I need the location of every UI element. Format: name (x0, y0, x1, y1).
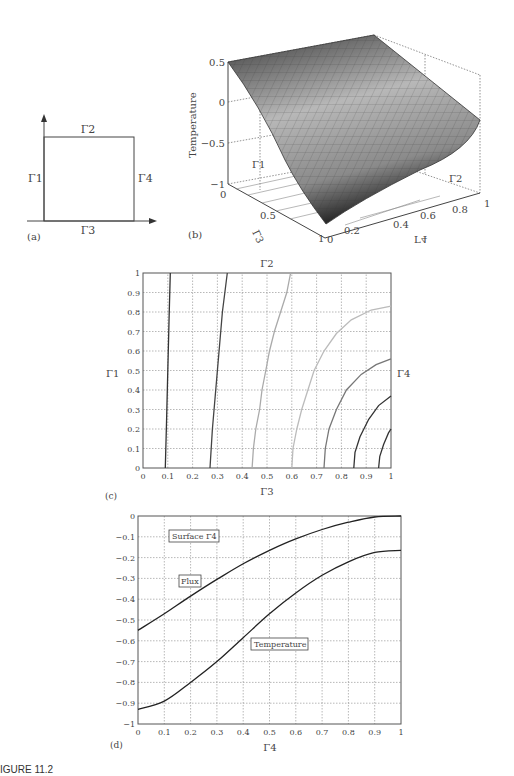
domain-square (44, 137, 134, 221)
x-tick: 0.8 (342, 728, 355, 737)
x-tick: 0.9 (360, 472, 373, 481)
y-tick: 1 (135, 269, 140, 278)
y-tick: −0.9 (116, 699, 135, 708)
x-axis-label: Γ4 (263, 742, 276, 753)
x-tick: 0 (140, 472, 145, 481)
arrow-right-icon (149, 218, 157, 224)
gamma4-tick: 0.4 (393, 219, 409, 230)
x-tick: 0.2 (186, 472, 199, 481)
gamma3-axis-label: Γ3 (250, 228, 266, 245)
x-tick: 1 (388, 472, 393, 481)
x-tick: 0 (135, 728, 140, 737)
y-tick: 0.7 (127, 328, 140, 337)
x-tick: 0.3 (211, 472, 224, 481)
gamma1-label: Γ1 (252, 159, 265, 170)
y-tick: 0.5 (127, 367, 140, 376)
y-tick: 0.8 (127, 308, 140, 317)
gamma1-label: Γ1 (106, 368, 119, 379)
gamma3-tick: 0 (220, 189, 226, 200)
x-tick: 0.6 (285, 472, 298, 481)
gamma4-tick: 0 (327, 234, 333, 245)
y-tick: 0.9 (127, 289, 140, 298)
contour-line (354, 396, 391, 468)
gamma4-label: Γ4 (397, 368, 410, 379)
z-tick: −0.5 (201, 138, 225, 149)
panel-c-contour-plot: 00.10.20.30.40.50.60.70.80.9100.10.20.30… (105, 258, 410, 501)
gamma4-tick: 0.8 (452, 204, 468, 215)
x-tick: 1 (398, 728, 403, 737)
x-axis-label: Γ3 (260, 486, 273, 497)
x-tick: 0.1 (161, 472, 174, 481)
panel-d-line-chart: 00.10.20.30.40.50.60.70.80.910−0.1−0.2−0… (110, 512, 404, 753)
panel-b-surface-plot: 0.5 0 −0.5 −1 Temperature Γ1 Γ2 0 0.5 1 … (187, 35, 490, 245)
y-tick: −0.8 (116, 678, 135, 687)
x-tick: 0.8 (335, 472, 348, 481)
gamma3-tick: 0.5 (260, 210, 276, 221)
gamma3-label: Γ3 (81, 224, 96, 237)
arrow-up-icon (41, 114, 47, 122)
x-tick: 0.1 (158, 728, 171, 737)
figure-caption: IGURE 11.2 (0, 764, 53, 775)
x-tick: 0.4 (237, 728, 250, 737)
y-tick: −0.2 (116, 554, 135, 563)
gamma4-tick: 0.6 (420, 210, 436, 221)
figure-canvas: Γ2 Γ1 Γ4 Γ3 (a) (0, 0, 514, 776)
x-tick: 0.7 (310, 472, 323, 481)
z-tick: 0 (219, 97, 225, 108)
y-tick: −0.6 (116, 637, 135, 646)
panel-c-label: (c) (105, 491, 117, 501)
panel-b-label: (b) (188, 229, 202, 240)
gamma1-label: Γ1 (28, 172, 43, 185)
annotation-surface: Surface Γ4 (172, 532, 217, 541)
y-tick: 0 (135, 464, 140, 473)
gamma4-axis-label: Γ4 (414, 234, 427, 245)
y-tick: −1 (123, 720, 135, 729)
panel-a-label: (a) (27, 231, 41, 242)
x-tick: 0.4 (236, 472, 249, 481)
gamma2-label: Γ2 (81, 123, 96, 136)
y-tick: −0.7 (116, 658, 135, 667)
panel-d-label: (d) (110, 740, 123, 750)
z-tick: 0.5 (209, 57, 225, 68)
x-tick: 0.5 (263, 728, 276, 737)
x-tick: 0.6 (289, 728, 302, 737)
x-tick: 0.5 (261, 472, 274, 481)
x-tick: 0.9 (368, 728, 381, 737)
y-tick: 0.1 (127, 445, 140, 454)
x-tick: 0.7 (316, 728, 329, 737)
y-tick: 0.4 (127, 386, 140, 395)
gamma4-tick: 1 (484, 198, 490, 209)
y-tick: 0.2 (127, 425, 140, 434)
y-tick: −0.3 (116, 574, 135, 583)
y-tick: −0.4 (116, 595, 135, 604)
y-tick: 0 (130, 512, 135, 521)
x-tick: 0.3 (211, 728, 224, 737)
x-tick: 0.2 (184, 728, 197, 737)
gamma3-tick: 1 (318, 233, 324, 244)
gamma4-tick: 0.2 (344, 225, 360, 236)
gamma2-label: Γ2 (260, 258, 273, 269)
z-axis-label: Temperature (187, 92, 198, 158)
y-tick: 0.6 (127, 347, 140, 356)
gamma4-label: Γ4 (138, 172, 153, 185)
annotation-temperature: Temperature (254, 640, 307, 649)
y-tick: −0.1 (116, 533, 135, 542)
y-tick: 0.3 (127, 406, 140, 415)
y-tick: −0.5 (116, 616, 135, 625)
gamma2-label: Γ2 (449, 173, 462, 184)
annotation-flux: Flux (181, 577, 199, 586)
panel-a-domain-diagram: Γ2 Γ1 Γ4 Γ3 (a) (27, 114, 157, 242)
